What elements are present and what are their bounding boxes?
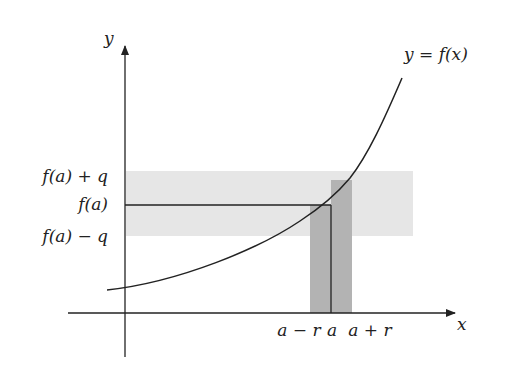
y-tick-lower: f(a) − q xyxy=(40,226,108,246)
x-tick-middle: a xyxy=(327,320,337,340)
horizontal-band xyxy=(126,171,413,236)
x-tick-right: a + r xyxy=(348,320,392,340)
x-axis-label: x xyxy=(457,314,467,334)
y-tick-upper: f(a) + q xyxy=(40,166,108,186)
x-tick-left: a − r xyxy=(277,320,321,340)
y-tick-middle: f(a) xyxy=(76,194,108,214)
diagram-canvas: y x y = f(x) f(a) + q f(a) f(a) − q a − … xyxy=(0,0,514,383)
curve-label: y = f(x) xyxy=(403,44,468,64)
vertical-band-upper xyxy=(331,180,352,205)
y-axis-label: y xyxy=(103,28,114,48)
